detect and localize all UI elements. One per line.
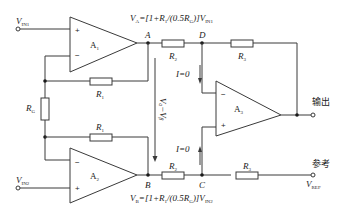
node-c-label: C	[199, 180, 206, 190]
a2-plus-sign: +	[75, 184, 80, 193]
current-top-label: I=0	[175, 69, 190, 79]
rg-label: RG	[25, 103, 36, 114]
vin2-label: VIN2	[16, 175, 30, 186]
op-amp-a2: − + A2	[70, 148, 137, 203]
resistor-rg	[41, 98, 49, 120]
va-equation: VA=[1+R1/(0.5RG)]VIN1	[130, 13, 213, 24]
reference-label: 参考	[312, 158, 330, 169]
vref-label: VREF	[306, 179, 321, 190]
output-terminal[interactable]	[311, 113, 315, 117]
a2-minus-sign: −	[75, 158, 80, 167]
node-d-label: D	[198, 30, 206, 40]
vin2-terminal[interactable]	[16, 186, 20, 190]
a1-minus-sign: −	[75, 51, 80, 60]
vdiff-label: Vₐ−Vᵦ	[158, 98, 168, 121]
output-label: 输出	[312, 96, 330, 107]
a1-plus-sign: +	[75, 26, 80, 35]
resistor-r3-bottom	[236, 172, 258, 179]
resistor-r2-top	[162, 40, 184, 47]
current-bottom-label: I=0	[175, 144, 190, 154]
node-b-label: B	[145, 180, 151, 190]
vin1-terminal[interactable]	[16, 27, 20, 31]
node-c-dot	[200, 173, 204, 177]
resistor-r3-top	[231, 40, 253, 47]
vb-equation: VB=[1+R1/(0.5RG)]VIN2	[130, 193, 213, 204]
a3-plus-sign: +	[221, 121, 226, 130]
r2-top-label: R2	[168, 51, 178, 62]
node-b-dot	[146, 173, 150, 177]
node-a-label: A	[144, 30, 151, 40]
op-amp-a1: + − A1	[70, 17, 137, 72]
instrumentation-amplifier-diagram: + − A1 VIN1 A R1 RG − + A2 R1 VIN2 B Vₐ−…	[0, 0, 342, 216]
r3-bottom-label: R3	[242, 161, 252, 172]
resistor-r1-bottom	[90, 134, 112, 141]
resistor-r2-bottom	[162, 172, 184, 179]
r1-bottom-label: R1	[95, 122, 105, 133]
vin1-label: VIN1	[16, 16, 30, 27]
op-amp-a3: − + A3	[216, 81, 281, 136]
r1-top-label: R1	[95, 89, 105, 100]
reference-terminal[interactable]	[311, 173, 315, 177]
r3-top-label: R3	[237, 51, 247, 62]
resistor-r1-top	[90, 78, 112, 85]
a3-minus-sign: −	[221, 90, 226, 99]
r2-bottom-label: R2	[168, 161, 178, 172]
